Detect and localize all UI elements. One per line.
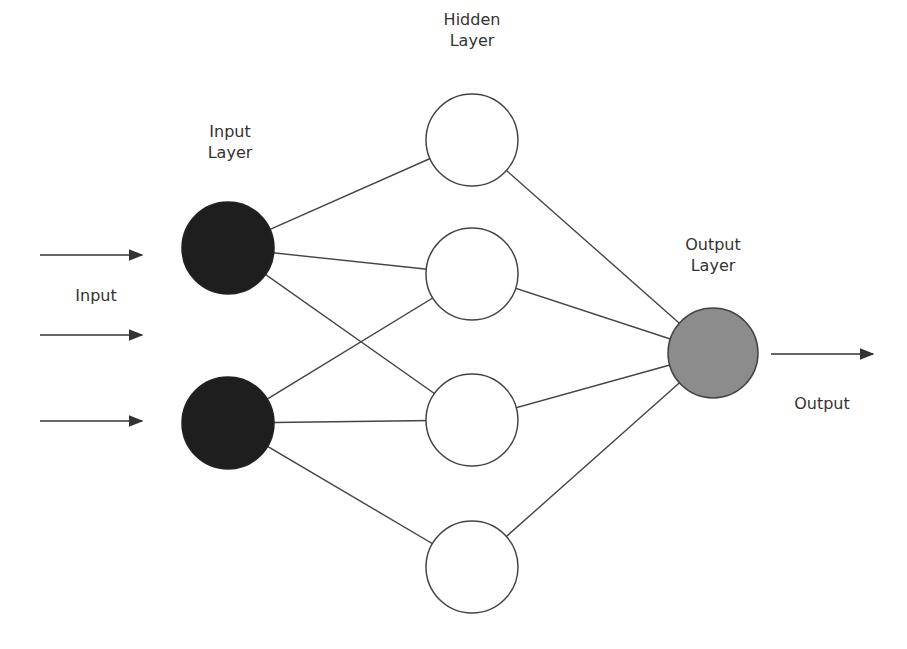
output-label: Output — [782, 393, 862, 414]
input-layer-label: Input Layer — [190, 121, 270, 163]
hidden-layer-label: Hidden Layer — [432, 9, 512, 51]
input-nodes — [182, 202, 274, 469]
hidden-node-1 — [426, 94, 518, 186]
input-layer-label-line2: Layer — [190, 142, 270, 163]
output-layer-label-line1: Output — [673, 234, 753, 255]
hidden-node-3 — [426, 374, 518, 466]
hidden-nodes — [426, 94, 518, 613]
input-node-2 — [182, 377, 274, 469]
diagram-canvas — [0, 0, 907, 649]
output-layer-label-line2: Layer — [673, 255, 753, 276]
output-layer-label: Output Layer — [673, 234, 753, 276]
hidden-layer-label-line1: Hidden — [432, 9, 512, 30]
input-layer-label-line1: Input — [190, 121, 270, 142]
connections — [228, 140, 713, 567]
hidden-layer-label-line2: Layer — [432, 30, 512, 51]
neural-network-diagram: Input Layer Hidden Layer Output Layer In… — [0, 0, 907, 649]
output-node — [668, 308, 758, 398]
hidden-node-4 — [426, 521, 518, 613]
input-label: Input — [56, 285, 136, 306]
input-node-1 — [182, 202, 274, 294]
hidden-node-2 — [426, 228, 518, 320]
edge-h4-out — [472, 353, 713, 567]
